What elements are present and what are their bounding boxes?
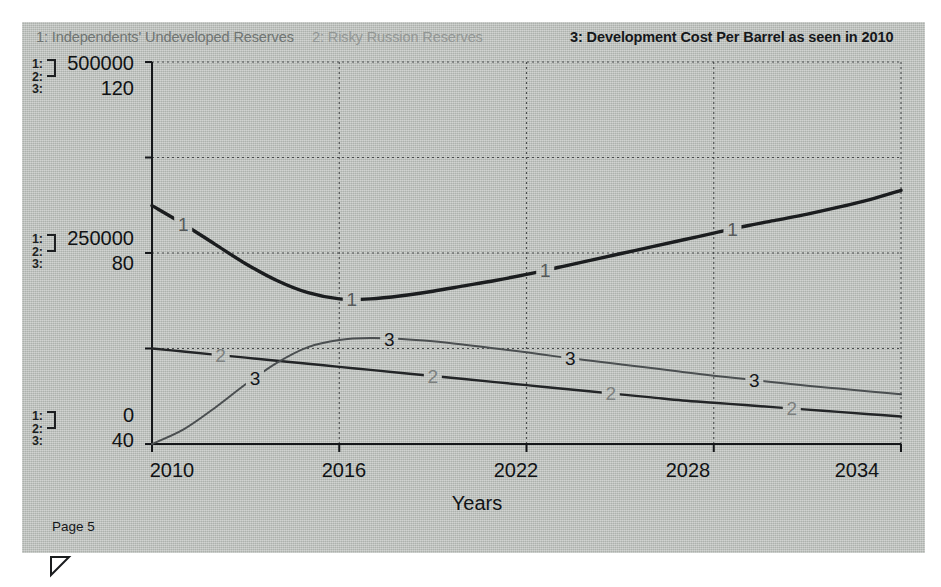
- axis-lines: [152, 62, 901, 444]
- xtick-label-2028: 2028: [643, 459, 733, 482]
- ytick-label-500000: 500000: [14, 52, 134, 74]
- chart-panel: 1: Independents' Undeveloped Reserves 2:…: [22, 22, 925, 553]
- series-1-point-label: 1: [178, 214, 189, 235]
- series-3-point-label: 3: [250, 368, 261, 389]
- series-2-point-label: 2: [215, 345, 226, 366]
- xtick-label-2016: 2016: [299, 459, 389, 482]
- ytick-label-250000: 250000: [14, 227, 134, 249]
- series-3-point-label: 3: [384, 329, 395, 350]
- xtick-label-2022: 2022: [471, 459, 561, 482]
- legend-item-3[interactable]: 3: Development Cost Per Barrel as seen i…: [570, 28, 893, 46]
- legend-item-1[interactable]: 1: Independents' Undeveloped Reserves: [36, 28, 294, 46]
- series-1-point-label: 1: [540, 260, 551, 281]
- ytick-label-120: 120: [14, 77, 134, 99]
- x-axis-title: Years: [377, 492, 577, 515]
- series-2-point-label: 2: [786, 398, 797, 419]
- series-lines: [152, 190, 901, 444]
- xtick-label-2010: 2010: [127, 459, 217, 482]
- gridlines: [152, 62, 901, 444]
- legend-item-2[interactable]: 2: Risky Russion Reserves: [312, 28, 483, 46]
- chart-page: 1: Independents' Undeveloped Reserves 2:…: [0, 0, 941, 587]
- series-1-point-label: 1: [346, 289, 357, 310]
- series-point-labels: 111122223333: [178, 214, 797, 420]
- ytick-label-80: 80: [14, 252, 134, 274]
- series-2-point-label: 2: [428, 366, 439, 387]
- ytick-label-0: 0: [14, 404, 134, 426]
- series-3-point-label: 3: [565, 348, 576, 369]
- series-1-point-label: 1: [727, 219, 738, 240]
- axis-ticks: [145, 62, 901, 452]
- ytick-label-40: 40: [14, 429, 134, 451]
- xtick-label-2034: 2034: [812, 459, 902, 482]
- series-2-point-label: 2: [605, 383, 616, 404]
- chart-legend: 1: Independents' Undeveloped Reserves 2:…: [22, 28, 925, 48]
- triangle-resize-icon[interactable]: [50, 556, 72, 578]
- series-3-point-label: 3: [749, 370, 760, 391]
- page-label: Page 5: [52, 519, 95, 534]
